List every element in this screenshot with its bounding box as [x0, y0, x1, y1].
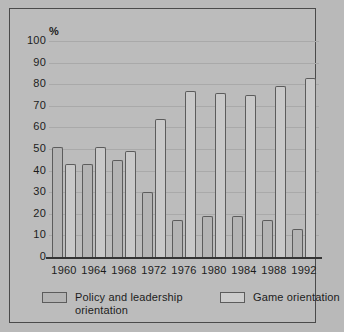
chart-frame: % 1009080706050403020100 196019641968197… — [9, 8, 316, 323]
bar-policy-1960 — [52, 147, 64, 257]
legend-label-policy: Policy and leadership orientation — [75, 291, 212, 317]
legend-swatch-game-icon — [220, 292, 245, 303]
y-axis-tick-label: 90 — [16, 57, 46, 68]
y-axis-tick-label: 70 — [16, 100, 46, 111]
y-axis-tick-label: 100 — [16, 35, 46, 46]
y-axis-tick-label: 60 — [16, 121, 46, 132]
chart-legend: Policy and leadership orientation Game o… — [30, 291, 315, 327]
y-axis-tick-label: 20 — [16, 208, 46, 219]
bar-game-1988 — [275, 86, 287, 257]
plot-area — [49, 41, 319, 257]
bar-game-1976 — [185, 91, 197, 257]
bar-game-1984 — [245, 95, 257, 257]
x-axis-tick-label: 1960 — [49, 264, 79, 276]
y-axis-tick-labels: 1009080706050403020100 — [15, 41, 46, 257]
y-axis-tick-label: 50 — [16, 143, 46, 154]
bar-game-1964 — [95, 147, 107, 257]
legend-item-game: Game orientation — [220, 291, 344, 304]
x-axis-tick-labels: 196019641968197219761980198419881992 — [49, 264, 319, 280]
legend-item-policy: Policy and leadership orientation — [42, 291, 212, 317]
y-axis-tick-label: 30 — [16, 186, 46, 197]
bar-game-1968 — [125, 151, 137, 257]
bar-game-1960 — [65, 164, 77, 257]
x-axis-tick-label: 1984 — [229, 264, 259, 276]
y-axis-tick-label: 10 — [16, 229, 46, 240]
gridline — [49, 63, 319, 64]
gridline — [49, 84, 319, 85]
legend-label-game: Game orientation — [253, 291, 340, 304]
bar-policy-1980 — [202, 216, 214, 257]
x-axis-line — [46, 257, 322, 259]
x-axis-tick-label: 1972 — [139, 264, 169, 276]
bar-policy-1988 — [262, 220, 274, 257]
bar-policy-1968 — [112, 160, 124, 257]
x-axis-tick-label: 1988 — [259, 264, 289, 276]
bar-game-1972 — [155, 119, 167, 257]
y-axis-tick-label: 40 — [16, 165, 46, 176]
y-axis-tick-label: 80 — [16, 78, 46, 89]
y-axis-tick-label: 0 — [16, 251, 46, 262]
x-axis-tick-label: 1964 — [79, 264, 109, 276]
bar-policy-1984 — [232, 216, 244, 257]
bar-game-1980 — [215, 93, 227, 257]
bar-policy-1992 — [292, 229, 304, 257]
x-axis-tick-label: 1980 — [199, 264, 229, 276]
x-axis-tick-label: 1968 — [109, 264, 139, 276]
bar-policy-1964 — [82, 164, 94, 257]
bar-policy-1976 — [172, 220, 184, 257]
x-axis-tick-label: 1976 — [169, 264, 199, 276]
bar-policy-1972 — [142, 192, 154, 257]
x-axis-tick-label: 1992 — [289, 264, 319, 276]
gridline — [49, 41, 319, 42]
y-axis-unit-label: % — [49, 25, 59, 37]
legend-swatch-policy-icon — [42, 292, 67, 303]
bar-game-1992 — [305, 78, 317, 257]
